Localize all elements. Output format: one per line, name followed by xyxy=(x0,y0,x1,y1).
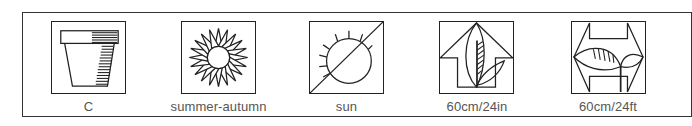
legend-label-container: C xyxy=(51,99,126,114)
sunflower-icon xyxy=(181,21,256,94)
spread-arrow-icon xyxy=(571,21,646,94)
pot-icon xyxy=(51,21,126,94)
height-arrow-icon xyxy=(439,21,514,94)
sun-shade-icon xyxy=(309,21,384,94)
legend-label-light: sun xyxy=(309,99,384,114)
legend-label-spread: 60cm/24ft xyxy=(558,99,658,114)
legend-label-flowering: summer-autumn xyxy=(167,99,270,114)
legend-label-height: 60cm/24in xyxy=(427,99,527,114)
